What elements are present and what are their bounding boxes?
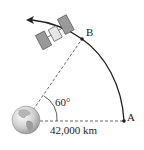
point-b-dot bbox=[80, 37, 84, 41]
earth-icon bbox=[12, 106, 40, 134]
satellite-icon bbox=[34, 15, 76, 50]
label-distance: 42,000 km bbox=[50, 125, 97, 136]
label-point-a: A bbox=[127, 112, 135, 123]
label-angle: 60° bbox=[55, 97, 70, 108]
label-point-b: B bbox=[86, 27, 93, 38]
point-a-dot bbox=[122, 119, 126, 123]
